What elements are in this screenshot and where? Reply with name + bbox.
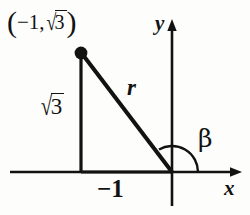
radical-sign-icon: √ — [46, 11, 56, 34]
point-label-close-paren: ) — [67, 5, 77, 38]
hypotenuse-label: r — [127, 76, 136, 99]
point-label-open-paren: ( — [7, 5, 17, 38]
leg-label-radical: √3 — [39, 93, 64, 118]
x-axis-tick-label: −1 — [97, 176, 124, 201]
trigonometry-diagram: (−1,√3) √3 r β −1 y x — [0, 0, 250, 215]
y-axis-label: y — [155, 13, 164, 34]
point-coordinate-label: (−1,√3) — [7, 7, 77, 37]
triangle-hypotenuse — [83, 55, 172, 172]
y-axis — [167, 19, 176, 206]
y-axis-arrowhead-icon — [167, 19, 176, 31]
plotted-point-dot — [75, 47, 88, 60]
radical-sign-icon: √ — [41, 93, 52, 119]
point-label-radical: √3 — [45, 9, 67, 33]
leg-label-radicand: 3 — [51, 93, 65, 118]
angle-arc-beta — [159, 146, 198, 172]
angle-label-beta: β — [198, 126, 212, 151]
x-axis-label: x — [224, 178, 235, 199]
vertical-leg-length-label: √3 — [39, 93, 64, 118]
point-label-x-value: −1, — [17, 10, 45, 34]
